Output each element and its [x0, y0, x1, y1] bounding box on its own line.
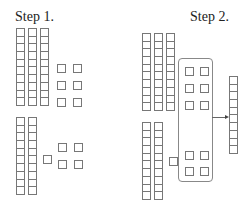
- ten-rod-cell: [142, 48, 151, 56]
- grouped-unit-cube: [200, 101, 209, 110]
- ten-rod-cell: [154, 145, 163, 153]
- ten-rod-cell: [28, 125, 37, 133]
- step1-ten-rod: [16, 28, 25, 106]
- ten-rod-cell: [142, 145, 151, 153]
- ten-rod-cell: [142, 184, 151, 192]
- ten-rod-cell: [142, 137, 151, 145]
- ten-rod-cell: [40, 28, 49, 36]
- ten-rod-cell: [166, 64, 175, 72]
- ten-rod-cell: [166, 48, 175, 56]
- step2-ten-rod: [154, 33, 163, 111]
- ten-rod-cell: [28, 179, 37, 187]
- step2-leftover-unit-cube: [169, 157, 178, 166]
- step1-unit-cube: [58, 143, 67, 152]
- ten-rod-cell: [16, 97, 25, 106]
- ten-rod-cell: [166, 95, 175, 103]
- ten-rod-cell: [229, 138, 238, 146]
- ten-rod-cell: [229, 122, 238, 130]
- ten-rod-cell: [166, 56, 175, 64]
- ten-rod-cell: [229, 91, 238, 99]
- ten-rod-cell: [154, 168, 163, 176]
- ten-rod-cell: [16, 155, 25, 163]
- ten-rod-cell: [40, 59, 49, 67]
- ten-rod-cell: [142, 87, 151, 95]
- result-ten-rod: [229, 76, 238, 154]
- ten-rod-cell: [16, 74, 25, 82]
- grouped-unit-cube: [200, 167, 209, 176]
- grouped-unit-cube: [200, 67, 209, 76]
- ten-rod-cell: [16, 66, 25, 74]
- ten-rod-cell: [166, 71, 175, 79]
- ten-rod-cell: [28, 140, 37, 148]
- ten-rod-cell: [142, 130, 151, 138]
- ten-rod-cell: [154, 122, 163, 130]
- ten-rod-cell: [28, 148, 37, 156]
- ten-rod-cell: [16, 140, 25, 148]
- ten-rod-cell: [154, 41, 163, 49]
- ten-rod-cell: [28, 59, 37, 67]
- right-arrow-icon: [212, 117, 226, 118]
- ten-rod-cell: [154, 33, 163, 41]
- ten-rod-cell: [154, 64, 163, 72]
- ten-rod-cell: [28, 66, 37, 74]
- ten-rod-cell: [28, 171, 37, 179]
- ten-rod-cell: [166, 33, 175, 41]
- ten-rod-cell: [229, 114, 238, 122]
- ten-rod-cell: [154, 87, 163, 95]
- step1-unit-cube: [57, 81, 66, 90]
- ten-rod-cell: [16, 186, 25, 195]
- step1-unit-cube: [73, 98, 82, 107]
- ten-rod-cell: [229, 84, 238, 92]
- ten-rod-cell: [166, 102, 175, 111]
- ten-rod-cell: [16, 171, 25, 179]
- ten-rod-cell: [154, 184, 163, 192]
- step1-label: Step 1.: [15, 10, 54, 24]
- ten-rod-cell: [142, 71, 151, 79]
- ten-rod-cell: [142, 41, 151, 49]
- ten-rod-cell: [28, 90, 37, 98]
- ten-rod-cell: [142, 191, 151, 200]
- ten-rod-cell: [16, 163, 25, 171]
- ten-rod-cell: [154, 176, 163, 184]
- step1-unit-cube: [57, 98, 66, 107]
- ten-rod-cell: [142, 122, 151, 130]
- ten-rod-cell: [154, 56, 163, 64]
- ten-rod-cell: [142, 79, 151, 87]
- ten-rod-cell: [28, 117, 37, 125]
- step1-unit-cube: [74, 160, 83, 169]
- grouped-unit-cube: [185, 84, 194, 93]
- ten-rod-cell: [16, 82, 25, 90]
- ten-rod-cell: [154, 102, 163, 111]
- grouped-unit-cube: [185, 101, 194, 110]
- step1-ten-rod: [16, 117, 25, 195]
- ten-rod-cell: [40, 43, 49, 51]
- ten-rod-cell: [16, 117, 25, 125]
- ten-rod-cell: [16, 90, 25, 98]
- ten-rod-cell: [154, 79, 163, 87]
- ten-rod-cell: [142, 33, 151, 41]
- ten-rod-cell: [154, 95, 163, 103]
- ten-rod-cell: [28, 132, 37, 140]
- ten-rod-cell: [28, 36, 37, 44]
- ten-rod-cell: [142, 102, 151, 111]
- step1-unit-cube: [73, 64, 82, 73]
- ten-rod-cell: [154, 137, 163, 145]
- ten-rod-cell: [154, 191, 163, 200]
- step1-ten-rod: [28, 117, 37, 195]
- grouped-unit-cube: [185, 151, 194, 160]
- ten-rod-cell: [28, 28, 37, 36]
- ten-rod-cell: [28, 97, 37, 106]
- grouped-unit-cube: [185, 67, 194, 76]
- grouped-unit-cube: [200, 84, 209, 93]
- ten-rod-cell: [142, 153, 151, 161]
- step1-unit-cube: [74, 143, 83, 152]
- ten-rod-cell: [154, 130, 163, 138]
- ten-rod-cell: [229, 145, 238, 154]
- ten-rod-cell: [229, 107, 238, 115]
- ten-rod-cell: [16, 28, 25, 36]
- ten-rod-cell: [28, 74, 37, 82]
- ten-rod-cell: [142, 160, 151, 168]
- grouped-unit-cube: [185, 167, 194, 176]
- ten-rod-cell: [154, 153, 163, 161]
- ten-rod-cell: [166, 41, 175, 49]
